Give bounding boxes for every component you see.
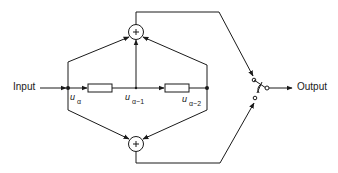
junction-u-alpha-2 (205, 86, 209, 90)
switch-contact-bottom (253, 96, 257, 100)
right-to-top-adder (143, 37, 207, 88)
delay-block-1 (88, 84, 112, 92)
node-label-u-alpha-minus-1: uα−1 (125, 92, 144, 102)
node-label-u-alpha-minus-2: uα−2 (182, 94, 201, 104)
output-label: Output (297, 81, 327, 92)
node-subscript: α−2 (189, 100, 201, 107)
junction-u-alpha-1 (135, 87, 137, 89)
node-symbol: u (125, 92, 130, 102)
switch-output-node (265, 86, 269, 90)
node-subscript: α−1 (132, 98, 144, 105)
junction-u-alpha (66, 86, 70, 90)
input-label: Input (13, 81, 35, 92)
top-adder-output (136, 12, 253, 76)
left-to-top-adder (68, 37, 129, 88)
node-symbol: u (182, 94, 187, 104)
node-subscript: α (77, 98, 81, 105)
bottom-adder-output (136, 103, 254, 163)
diagram-canvas (0, 0, 338, 173)
node-symbol: u (70, 92, 75, 102)
node-label-u-alpha: uα (70, 92, 81, 102)
delay-block-2 (165, 84, 189, 92)
